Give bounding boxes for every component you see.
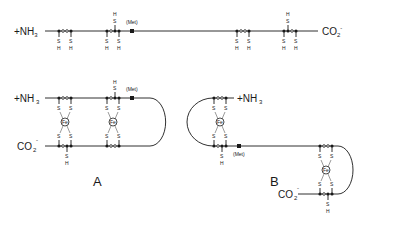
svg-text:H: H	[235, 45, 239, 51]
linear-chain: +NH3 CO2- SH SH SH SH SH (Met) SH SH SH …	[14, 11, 342, 51]
svg-text:H: H	[113, 11, 117, 17]
n-terminus-label: +NH3	[14, 26, 38, 38]
svg-text:S: S	[318, 181, 322, 187]
svg-text:S: S	[247, 38, 251, 44]
panel-a: +NH 3 CO 2 - SS SS Fe SH SS SS Fe SH (Me…	[14, 79, 166, 189]
svg-text:S: S	[105, 105, 109, 111]
svg-text:S: S	[212, 105, 216, 111]
c-terminus-label: CO2-	[322, 25, 342, 38]
svg-text:H: H	[105, 45, 109, 51]
svg-text:S: S	[117, 38, 121, 44]
svg-text:S: S	[113, 18, 117, 24]
svg-text:S: S	[330, 181, 334, 187]
svg-text:2: 2	[294, 195, 298, 201]
svg-text:S: S	[113, 85, 117, 91]
svg-text:+NH: +NH	[237, 93, 257, 104]
panel-label-b: B	[270, 174, 279, 189]
svg-text:H: H	[294, 45, 298, 51]
svg-text:S: S	[235, 38, 239, 44]
svg-text:+NH: +NH	[14, 93, 34, 104]
panel-b: +NH 3 CO 2 - SS SS Fe SH (Met) SS SS Fe …	[187, 93, 353, 214]
svg-text:(Met): (Met)	[126, 86, 138, 92]
svg-text:S: S	[330, 153, 334, 159]
svg-text:S: S	[286, 18, 290, 24]
svg-text:Fe: Fe	[110, 119, 116, 125]
svg-text:S: S	[65, 153, 69, 159]
svg-text:2: 2	[33, 147, 37, 153]
svg-text:H: H	[282, 45, 286, 51]
panel-label-a: A	[93, 174, 102, 189]
svg-text:3: 3	[36, 99, 40, 105]
svg-text:S: S	[57, 133, 61, 139]
svg-text:S: S	[282, 38, 286, 44]
svg-text:H: H	[57, 45, 61, 51]
svg-text:S: S	[224, 133, 228, 139]
svg-text:S: S	[117, 105, 121, 111]
svg-text:CO: CO	[278, 189, 293, 200]
protein-topology-diagram: +NH3 CO2- SH SH SH SH SH (Met) SH SH SH …	[0, 0, 397, 228]
svg-text:S: S	[69, 105, 73, 111]
svg-text:(Met): (Met)	[233, 151, 245, 157]
svg-text:S: S	[105, 38, 109, 44]
svg-text:-: -	[36, 137, 38, 143]
svg-text:S: S	[57, 105, 61, 111]
svg-text:S: S	[294, 38, 298, 44]
svg-text:S: S	[69, 133, 73, 139]
svg-text:H: H	[247, 45, 251, 51]
svg-text:H: H	[69, 45, 73, 51]
svg-text:H: H	[113, 79, 117, 85]
svg-text:H: H	[286, 11, 290, 17]
svg-text:S: S	[105, 133, 109, 139]
svg-text:3: 3	[259, 99, 263, 105]
svg-text:Fe: Fe	[323, 167, 329, 173]
svg-text:(Met): (Met)	[126, 19, 138, 25]
svg-text:S: S	[224, 105, 228, 111]
svg-text:H: H	[220, 160, 224, 166]
svg-text:S: S	[318, 153, 322, 159]
svg-text:H: H	[117, 45, 121, 51]
svg-text:S: S	[57, 38, 61, 44]
svg-text:-: -	[297, 185, 299, 191]
svg-text:S: S	[326, 201, 330, 207]
svg-text:S: S	[220, 153, 224, 159]
svg-text:S: S	[212, 133, 216, 139]
svg-text:S: S	[69, 38, 73, 44]
svg-text:S: S	[117, 133, 121, 139]
svg-text:Fe: Fe	[217, 119, 223, 125]
svg-text:H: H	[326, 208, 330, 214]
svg-text:CO: CO	[17, 141, 32, 152]
met-marker	[130, 29, 134, 33]
svg-text:Fe: Fe	[62, 119, 68, 125]
svg-text:H: H	[65, 160, 69, 166]
